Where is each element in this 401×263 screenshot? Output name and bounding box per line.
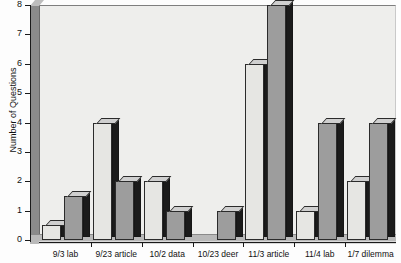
bar-dark-3: [217, 211, 236, 240]
x-axis-label-5: 11/4 lab: [305, 249, 335, 259]
bar-dark-2: [166, 211, 185, 240]
bar-face: [217, 211, 236, 240]
bar-dark-4: [267, 5, 286, 240]
x-axis-label-6: 1/7 dilemma: [347, 249, 393, 259]
y-tick-1: [25, 211, 30, 212]
bar-dark-0: [64, 196, 83, 240]
bar-dark-5: [318, 123, 337, 241]
bar-face: [42, 225, 61, 240]
bar-chart: Number of Questions 012345678 9/3 lab9/2…: [0, 0, 401, 263]
bar-face: [64, 196, 83, 240]
x-axis-label-1: 9/23 article: [95, 249, 137, 259]
bar-face: [245, 64, 264, 240]
bar-face: [144, 181, 163, 240]
x-axis-label-4: 11/3 article: [248, 249, 289, 259]
bar-light-5: [296, 211, 315, 240]
y-tick-5: [25, 93, 30, 94]
x-tick-1: [91, 242, 92, 247]
y-axis-line: [30, 5, 31, 242]
bar-side: [134, 178, 141, 237]
bar-side: [83, 193, 90, 237]
x-tick-2: [142, 242, 143, 247]
y-tick-label-6: 6: [17, 59, 22, 68]
bar-face: [267, 5, 286, 240]
bar-face: [93, 123, 112, 241]
bar-face: [318, 123, 337, 241]
y-tick-label-1: 1: [17, 206, 22, 215]
bar-side: [236, 208, 243, 237]
axis-depth-wall: [30, 5, 40, 241]
bar-light-0: [42, 225, 61, 240]
bar-dark-1: [115, 181, 134, 240]
bar-face: [115, 181, 134, 240]
y-tick-label-8: 8: [17, 0, 22, 9]
x-axis-label-2: 10/2 data: [149, 249, 184, 259]
bar-dark-6: [369, 123, 388, 241]
x-tick-5: [294, 242, 295, 247]
bar-side: [388, 120, 395, 238]
bar-light-2: [144, 181, 163, 240]
bar-side: [185, 208, 192, 237]
x-axis-label-3: 10/23 deer: [198, 249, 239, 259]
x-axis-label-0: 9/3 lab: [53, 249, 79, 259]
y-tick-4: [25, 123, 30, 124]
y-tick-8: [25, 5, 30, 6]
bar-face: [296, 211, 315, 240]
bar-face: [166, 211, 185, 240]
y-tick-label-3: 3: [17, 147, 22, 156]
x-tick-6: [345, 242, 346, 247]
y-tick-label-0: 0: [17, 235, 22, 244]
bar-face: [369, 123, 388, 241]
bar-side: [286, 2, 293, 237]
bar-side: [337, 120, 344, 238]
y-tick-0: [25, 240, 30, 241]
bar-light-4: [245, 64, 264, 240]
x-axis-line: [39, 242, 396, 243]
bar-light-1: [93, 123, 112, 241]
bar-face: [347, 181, 366, 240]
y-tick-label-5: 5: [17, 88, 22, 97]
y-tick-6: [25, 64, 30, 65]
y-tick-label-4: 4: [17, 118, 22, 127]
y-tick-7: [25, 34, 30, 35]
y-tick-label-7: 7: [17, 29, 22, 38]
y-tick-label-2: 2: [17, 176, 22, 185]
x-tick-3: [193, 242, 194, 247]
y-tick-2: [25, 181, 30, 182]
bar-light-6: [347, 181, 366, 240]
y-tick-3: [25, 152, 30, 153]
x-tick-4: [243, 242, 244, 247]
